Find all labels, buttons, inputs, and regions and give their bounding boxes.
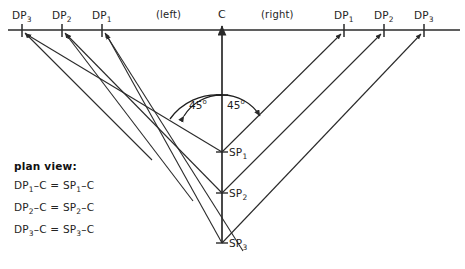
label-dp2-right: DP2 bbox=[374, 10, 394, 24]
plan-view-equation-2: DP2–C = SP2–C bbox=[14, 201, 164, 216]
label-center-c: C bbox=[218, 9, 226, 20]
plan-view-equation-3: DP3–C = SP3–C bbox=[14, 223, 164, 238]
label-dp1-right: DP1 bbox=[334, 10, 354, 24]
label-right-side-note: (right) bbox=[261, 10, 294, 20]
label-sp2: SP2 bbox=[229, 188, 247, 202]
v-legs-right bbox=[222, 34, 421, 243]
label-left-side-note: (left) bbox=[156, 10, 181, 20]
label-dp3-left: DP3 bbox=[12, 10, 32, 24]
diagram-root: DP3 DP2 DP1 (left) C (right) DP1 DP2 DP3… bbox=[0, 0, 465, 269]
label-sp3: SP3 bbox=[229, 238, 247, 252]
plan-view-title: plan view: bbox=[14, 160, 164, 172]
label-dp3-right: DP3 bbox=[414, 10, 434, 24]
angle-label-right: 45o bbox=[227, 98, 245, 111]
label-dp1-left: DP1 bbox=[92, 10, 112, 24]
label-dp2-left: DP2 bbox=[52, 10, 72, 24]
plan-view-equation-1: DP1–C = SP1–C bbox=[14, 179, 164, 194]
plan-view-block: plan view: DP1–C = SP1–C DP2–C = SP2–C D… bbox=[14, 160, 164, 245]
angle-label-left: 45o bbox=[189, 98, 207, 111]
label-sp1: SP1 bbox=[229, 147, 247, 161]
